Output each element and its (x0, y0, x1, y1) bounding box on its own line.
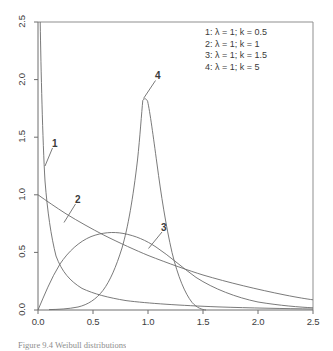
legend-entry-4: 4: λ = 1; k = 5 (205, 62, 309, 74)
curve-label-3: 3 (161, 222, 167, 233)
curve-label-2: 2 (75, 194, 81, 205)
x-tick-label-3: 1.5 (194, 316, 212, 327)
x-tick-label-2: 1.0 (139, 316, 157, 327)
x-tick-label-1: 0.5 (84, 316, 102, 327)
legend-entry-3: 3: λ = 1; k = 1.5 (205, 50, 309, 62)
curve-label-4: 4 (155, 70, 161, 81)
figure-caption: Figure 9.4 Weibull distributions (18, 340, 126, 351)
x-tick-label-4: 2.0 (249, 316, 267, 327)
curve-k-5 (49, 99, 206, 310)
legend-entry-1: 1: λ = 1; k = 0.5 (205, 27, 309, 39)
legend-entry-2: 2: λ = 1; k = 1 (205, 39, 309, 51)
x-tick-label-5: 2.5 (304, 316, 322, 327)
y-tick-label-0: 0.0 (16, 300, 27, 320)
annotation-leader-lines (45, 81, 162, 249)
y-tick-label-1: 0.5 (16, 242, 27, 262)
y-tick-label-5: 2.5 (16, 12, 27, 32)
chart-legend: 1: λ = 1; k = 0.5 2: λ = 1; k = 1 3: λ =… (205, 27, 309, 73)
y-tick-label-2: 1.0 (16, 184, 27, 204)
y-tick-label-3: 1.5 (16, 127, 27, 147)
x-tick-label-0: 0.0 (29, 316, 47, 327)
curve-k-1 (38, 195, 313, 300)
weibull-distribution-figure: 0.0 0.5 1.0 1.5 2.0 2.5 0.0 0.5 1.0 1.5 … (0, 0, 333, 351)
curve-label-1: 1 (52, 138, 58, 149)
curve-k-1.5 (38, 232, 313, 310)
y-tick-label-4: 2.0 (16, 69, 27, 89)
